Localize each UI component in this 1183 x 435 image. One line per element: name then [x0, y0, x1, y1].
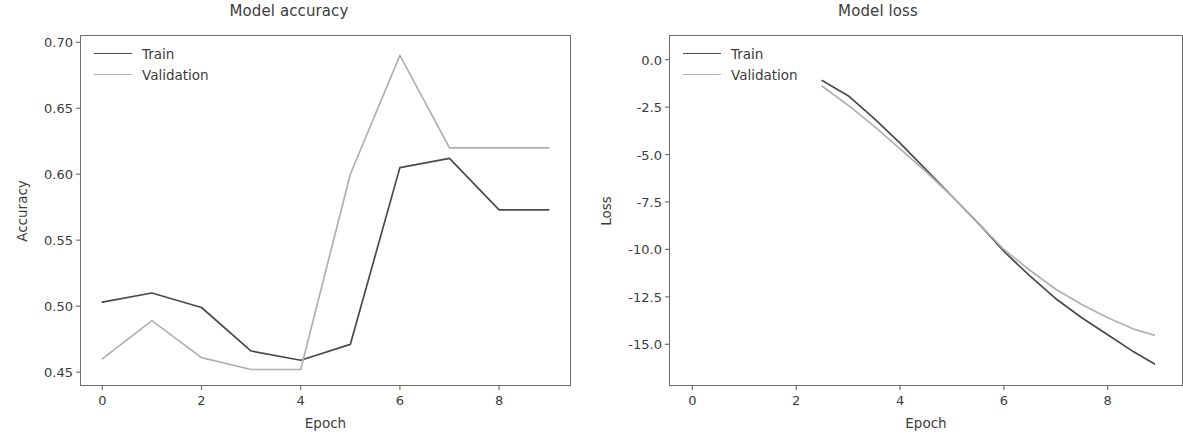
loss-legend: Train Validation [675, 39, 806, 90]
accuracy-x-axis-label: Epoch [305, 415, 346, 431]
loss-x-tick-0: 0 [688, 393, 696, 408]
loss-y-tick-2: -10.0 [628, 242, 662, 257]
loss-x-axis-label: Epoch [905, 415, 946, 431]
legend-label-validation: Validation [142, 67, 209, 83]
loss-y-tick-4: -5.0 [637, 147, 662, 162]
loss-y-tick-6: 0.0 [641, 52, 662, 67]
validation-line-swatch-icon [683, 74, 721, 75]
loss-y-tick-1: -12.5 [628, 289, 662, 304]
train-line-swatch-icon [683, 53, 721, 54]
loss-x-tick-3: 6 [1000, 393, 1008, 408]
loss-y-axis-label: Loss [598, 196, 614, 226]
validation-line-swatch-icon [94, 74, 132, 75]
legend-label-validation: Validation [731, 67, 798, 83]
loss-y-tick-5: -2.5 [637, 100, 662, 115]
loss-chart-panel: Model loss -15.0-12.5-10.0-7.5-5.0-2.50.… [578, 0, 1155, 435]
loss-x-tick-2: 4 [896, 393, 904, 408]
loss-plot-lines [578, 0, 1155, 435]
legend-item-train[interactable]: Train [94, 43, 209, 64]
accuracy-legend: Train Validation [86, 39, 217, 90]
loss-y-tick-0: -15.0 [628, 337, 662, 352]
legend-item-train[interactable]: Train [683, 43, 798, 64]
accuracy-y-axis-label: Accuracy [14, 180, 30, 242]
accuracy-y-tick-0: 0.45 [44, 365, 73, 380]
legend-label-train: Train [142, 46, 174, 62]
legend-item-validation[interactable]: Validation [683, 64, 798, 85]
accuracy-x-tick-2: 4 [297, 393, 305, 408]
accuracy-y-tick-2: 0.55 [44, 233, 73, 248]
accuracy-x-tick-3: 6 [396, 393, 404, 408]
accuracy-x-tick-0: 0 [98, 393, 106, 408]
train-line-swatch-icon [94, 53, 132, 54]
loss-x-tick-4: 8 [1104, 393, 1112, 408]
accuracy-y-tick-5: 0.70 [44, 35, 73, 50]
accuracy-y-tick-4: 0.65 [44, 101, 73, 116]
legend-label-train: Train [731, 46, 763, 62]
accuracy-chart-panel: Model accuracy 0.450.500.550.600.650.70 … [0, 0, 578, 435]
accuracy-y-tick-3: 0.60 [44, 167, 73, 182]
legend-item-validation[interactable]: Validation [94, 64, 209, 85]
accuracy-x-tick-4: 8 [495, 393, 503, 408]
loss-x-tick-1: 2 [792, 393, 800, 408]
loss-y-tick-3: -7.5 [637, 194, 662, 209]
accuracy-x-tick-1: 2 [197, 393, 205, 408]
accuracy-y-tick-1: 0.50 [44, 299, 73, 314]
